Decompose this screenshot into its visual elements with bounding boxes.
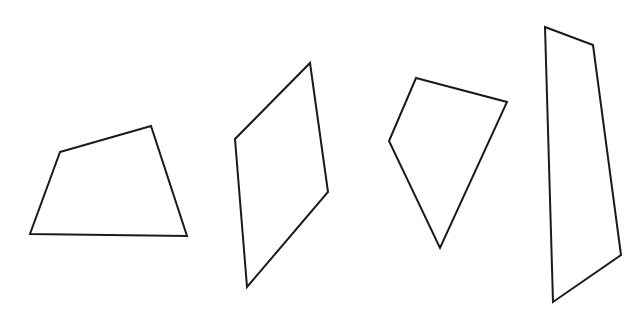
quadrilateral-2 xyxy=(235,63,328,287)
quadrilateral-1 xyxy=(30,126,187,236)
quadrilateral-3 xyxy=(389,78,507,248)
quadrilateral-4 xyxy=(545,27,621,302)
shapes-canvas xyxy=(0,0,641,329)
